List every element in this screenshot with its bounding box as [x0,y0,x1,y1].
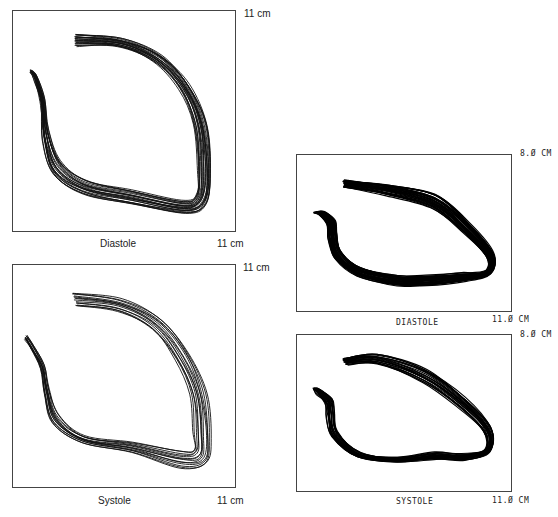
contour-line [31,35,211,213]
right-systole-caption: SYSTOLE [396,497,433,506]
left-systole-contours [13,265,235,487]
contour-line [30,37,209,211]
right-systole-contours [297,335,511,491]
left-diastole-plot [12,10,236,232]
contour-line [27,302,202,459]
contour-line [32,42,202,203]
right-diastole-x-extent-label: 11.Ø CM [492,315,529,324]
left-systole-x-extent-label: 11 cm [217,495,244,506]
contour-line [31,39,205,209]
contour-line [31,37,209,210]
right-systole-y-extent-label: 8.Ø CM [520,330,552,339]
contour-line [30,41,203,208]
contour-line [31,43,202,206]
right-diastole-plot [296,154,512,312]
contour-line [30,40,204,206]
right-systole-plot [296,334,512,492]
contour-line [31,42,202,205]
left-systole-caption: Systole [98,495,131,506]
contour-line [26,303,198,455]
contour-line [27,305,196,452]
right-diastole-caption: DIASTOLE [396,318,439,327]
contour-line [31,35,210,212]
contour-line [26,305,197,454]
contour-line [31,39,207,209]
contour-line [25,298,202,460]
contour-line [30,37,208,209]
contour-line [31,37,207,211]
left-diastole-y-extent-label: 11 cm [244,8,271,19]
contour-line [27,306,196,452]
right-diastole-y-extent-label: 8.Ø CM [520,149,552,158]
left-diastole-contours [13,11,235,231]
left-systole-y-extent-label: 11 cm [243,262,270,273]
contour-line [27,303,199,457]
left-diastole-x-extent-label: 11 cm [217,238,244,249]
contour-line [32,35,210,213]
contour-line [26,300,202,459]
right-systole-x-extent-label: 11.Ø CM [492,496,529,505]
contour-line [25,298,203,463]
contour-line [32,34,211,213]
left-diastole-caption: Diastole [100,238,136,249]
right-diastole-contours [297,155,511,311]
left-systole-plot [12,264,236,488]
contour-line [25,297,206,463]
contour-line [31,39,206,208]
contour-line [25,296,208,465]
contour-line [30,40,203,206]
